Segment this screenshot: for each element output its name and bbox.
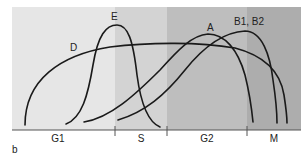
panel-label: b <box>12 144 18 155</box>
phase-label-g1: G1 <box>51 133 65 144</box>
label-e: E <box>111 11 118 22</box>
phase-label-m: M <box>270 133 278 144</box>
band-g1 <box>12 7 115 130</box>
phase-label-s: S <box>138 133 145 144</box>
label-b1-b2: B1, B2 <box>234 16 264 27</box>
band-s <box>115 7 167 130</box>
phase-label-g2: G2 <box>200 133 214 144</box>
cell-cycle-diagram: D E A B1, B2 G1 S G2 M b <box>0 0 307 159</box>
label-a: A <box>207 22 214 33</box>
label-d: D <box>70 42 77 53</box>
